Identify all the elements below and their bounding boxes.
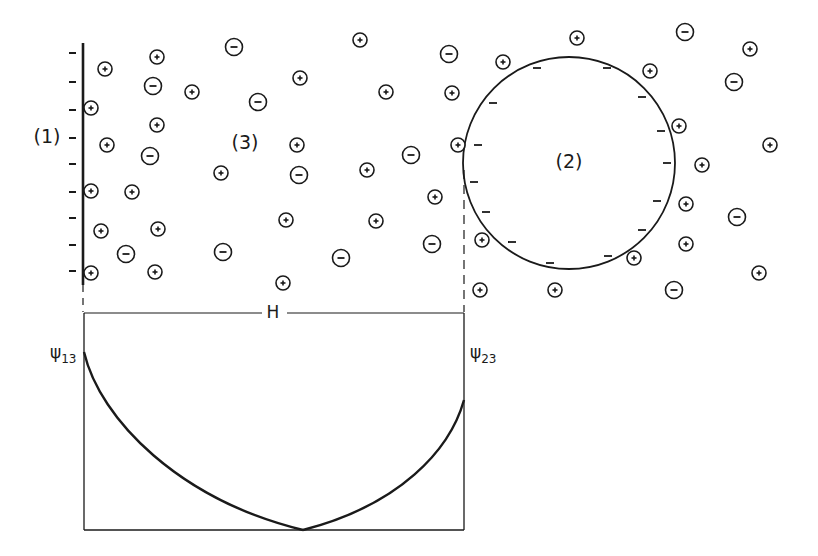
cation-icon <box>752 266 766 280</box>
potential-profile-plot <box>84 313 464 530</box>
cation-icon <box>643 64 657 78</box>
psi13-symbol: ψ <box>50 342 61 362</box>
anion-icon <box>403 147 420 164</box>
anion-icon <box>677 24 694 41</box>
dashed-guides <box>83 170 464 312</box>
psi13-subscript: 13 <box>61 352 76 366</box>
cation-icon <box>627 251 641 265</box>
cation-icon <box>84 184 98 198</box>
psi23-subscript: 23 <box>481 352 496 366</box>
anion-icon <box>424 236 441 253</box>
cation-icon <box>763 138 777 152</box>
cation-icon <box>570 31 584 45</box>
potential-curve-right <box>303 400 464 530</box>
cation-icon <box>743 42 757 56</box>
cation-icon <box>98 62 112 76</box>
cation-icon <box>84 266 98 280</box>
cation-icon <box>360 163 374 177</box>
cation-icon <box>428 190 442 204</box>
cation-icon <box>84 101 98 115</box>
phase-2-label: (2) <box>556 150 583 172</box>
anion-icon <box>142 148 159 165</box>
anion-icon <box>226 39 243 56</box>
double-layer-diagram: (1) (2) (3) H ψ13 ψ23 <box>0 0 818 556</box>
cation-icon <box>100 138 114 152</box>
separation-distance-label: H <box>267 302 280 322</box>
anion-icon <box>145 78 162 95</box>
cation-icon <box>672 119 686 133</box>
phase-3-label: (3) <box>232 131 259 153</box>
psi13-label: ψ13 <box>50 342 77 366</box>
cation-icon <box>473 283 487 297</box>
cation-icon <box>379 85 393 99</box>
cation-icon <box>293 71 307 85</box>
cation-icon <box>151 222 165 236</box>
cation-icon <box>475 233 489 247</box>
anion-icon <box>441 46 458 63</box>
cation-icon <box>125 185 139 199</box>
anion-icon <box>726 74 743 91</box>
anion-icon <box>215 244 232 261</box>
anion-icon <box>291 167 308 184</box>
cation-icon <box>353 33 367 47</box>
cation-icon <box>185 85 199 99</box>
anion-icon <box>333 250 350 267</box>
cation-icon <box>150 50 164 64</box>
anion-icon <box>729 209 746 226</box>
potential-curve-left <box>84 352 303 530</box>
cation-icon <box>214 166 228 180</box>
phase-1-label: (1) <box>34 125 61 147</box>
psi23-label: ψ23 <box>470 342 497 366</box>
cation-icon <box>548 283 562 297</box>
cation-icon <box>679 237 693 251</box>
cation-icon <box>496 55 510 69</box>
cation-icon <box>279 213 293 227</box>
anion-icon <box>250 94 267 111</box>
cation-icon <box>445 86 459 100</box>
cation-icon <box>679 197 693 211</box>
cation-icon <box>94 224 108 238</box>
cation-icon <box>290 138 304 152</box>
cation-icon <box>369 214 383 228</box>
charged-plate <box>69 43 83 285</box>
anion-icon <box>118 246 135 263</box>
anion-icon <box>666 282 683 299</box>
psi23-symbol: ψ <box>470 342 481 362</box>
cation-icon <box>451 138 465 152</box>
cation-icon <box>150 118 164 132</box>
cation-icon <box>276 276 290 290</box>
ion-cloud <box>84 24 777 299</box>
cation-icon <box>148 265 162 279</box>
cation-icon <box>695 158 709 172</box>
